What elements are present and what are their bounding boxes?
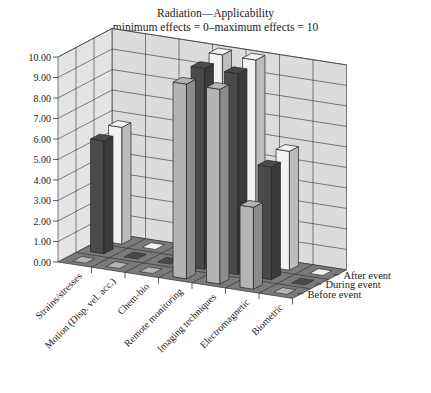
bar-side: [220, 85, 229, 285]
y-tick-label: 1.00: [34, 236, 52, 247]
y-tick-label: 10.00: [29, 52, 52, 63]
bar-side: [104, 136, 113, 254]
bar-front: [240, 205, 253, 289]
bar-front: [207, 87, 220, 284]
bar-side: [253, 203, 262, 290]
y-tick-label: 8.00: [34, 93, 52, 104]
bar-chart-3d: 0.001.002.003.004.005.006.007.008.009.00…: [0, 0, 431, 393]
y-tick-label: 7.00: [34, 113, 52, 124]
bar-side: [289, 147, 298, 271]
bar-side: [271, 162, 280, 280]
bar-side: [186, 79, 195, 279]
y-tick-label: 5.00: [34, 154, 52, 165]
series-label: After event: [344, 270, 392, 281]
series-label: Before event: [308, 289, 362, 300]
bar-side: [122, 123, 131, 245]
category-label: Biometric: [249, 301, 285, 337]
y-tick-label: 6.00: [34, 134, 52, 145]
bar-front: [91, 139, 104, 254]
bar-front: [173, 82, 186, 279]
y-tick-label: 3.00: [34, 195, 52, 206]
y-tick-label: 2.00: [34, 216, 52, 227]
series-label: During event: [326, 279, 381, 290]
y-tick-label: 4.00: [34, 175, 52, 186]
y-tick-label: 0.00: [34, 257, 52, 268]
category-label: Motion (Disp. vel. acc.): [42, 275, 118, 351]
category-label: Chem-bio: [115, 281, 151, 317]
y-tick-label: 9.00: [34, 72, 52, 83]
